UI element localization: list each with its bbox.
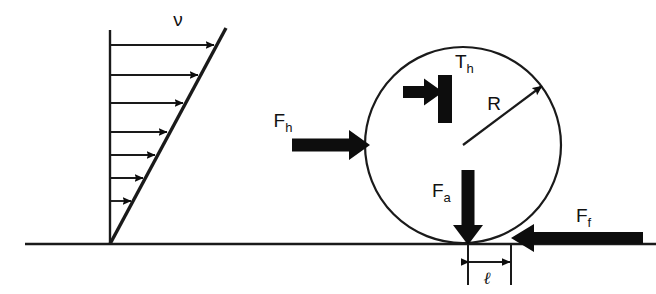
Fa-label: Fa (432, 180, 452, 205)
horizontal-force-Fh: Fh (274, 110, 370, 160)
Th-label-base: T (455, 51, 467, 72)
offset-length-label: ℓ (483, 269, 490, 288)
Fh-label-sub: h (285, 120, 292, 135)
velocity-profile: ν (110, 9, 226, 244)
technical-diagram: ν Fh Th R Fa (0, 0, 656, 294)
axial-force-Fa: Fa (432, 170, 483, 245)
Fh-label: Fh (274, 110, 293, 135)
Th-label: Th (455, 51, 474, 76)
diagram-canvas: ν Fh Th R Fa (0, 0, 656, 294)
Ff-label-base: F (576, 205, 588, 226)
Fh-label-base: F (274, 110, 286, 131)
Ff-label-sub: f (588, 215, 592, 230)
offset-dimension-l: ℓ (468, 244, 511, 288)
Ff-arrow-glyph (511, 224, 643, 252)
Fa-label-sub: a (444, 190, 452, 205)
Th-arrow-glyph (403, 79, 443, 106)
traction-force-Th: Th (403, 51, 474, 123)
Fa-arrow-glyph (453, 170, 483, 245)
traction-bar (438, 75, 452, 123)
velocity-label: ν (173, 9, 183, 30)
Th-label-sub: h (467, 61, 474, 76)
Fh-arrow-glyph (292, 130, 370, 160)
velocity-profile-envelope (110, 28, 226, 244)
radius-label: R (487, 93, 501, 114)
Fa-label-base: F (432, 180, 444, 201)
Ff-label: Ff (576, 205, 592, 230)
radius-arrow (463, 86, 542, 145)
radius-indicator: R (463, 86, 542, 145)
